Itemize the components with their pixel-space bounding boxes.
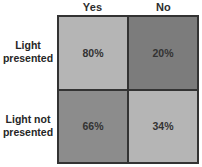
row-label-light-not-presented: Light not presented [0, 113, 56, 139]
row-label-line: Light not [0, 113, 56, 126]
row-label-line: presented [0, 52, 56, 65]
row-label-line: Light [0, 39, 56, 52]
matrix-cell-presented-no: 20% [129, 17, 197, 89]
matrix-grid: 80% 20% 66% 34% [57, 15, 199, 164]
column-header-yes: Yes [57, 1, 128, 13]
row-label-light-presented: Light presented [0, 39, 56, 65]
column-header-no: No [128, 1, 199, 13]
contingency-matrix-figure: Yes No Light presented Light not present… [0, 0, 202, 167]
matrix-cell-not-presented-yes: 66% [59, 91, 127, 163]
matrix-cell-presented-yes: 80% [59, 17, 127, 89]
matrix-cell-not-presented-no: 34% [129, 91, 197, 163]
row-label-line: presented [0, 126, 56, 139]
